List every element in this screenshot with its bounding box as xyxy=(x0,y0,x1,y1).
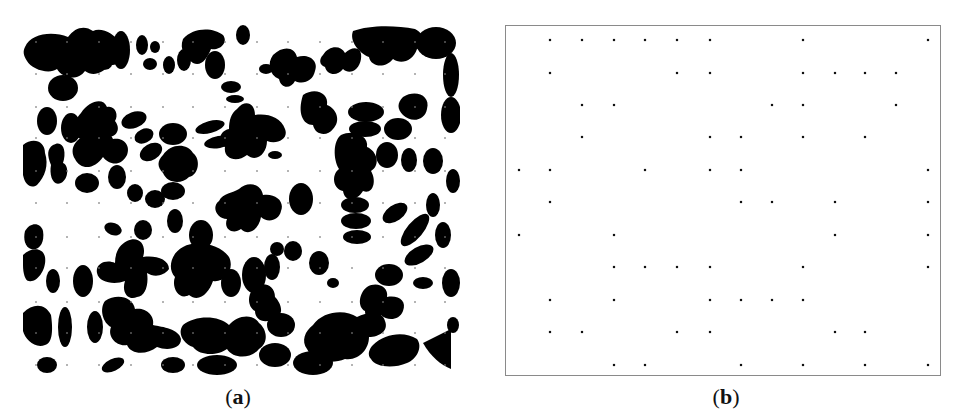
grid-dot xyxy=(35,332,37,334)
grid-dot xyxy=(351,73,353,75)
grid-dot xyxy=(162,137,164,139)
grid-dot xyxy=(192,106,194,108)
sampled-point xyxy=(864,364,866,366)
sampled-points-plot xyxy=(506,26,940,375)
grid-dot xyxy=(351,267,353,269)
sampled-point xyxy=(709,169,711,171)
grid-dot xyxy=(256,332,258,334)
sampled-point xyxy=(613,266,615,268)
sampled-point xyxy=(518,169,520,171)
sampled-point xyxy=(613,104,615,106)
grid-dot xyxy=(382,267,384,269)
grid-dot xyxy=(35,236,37,238)
grid-dot xyxy=(224,106,226,108)
sampled-point xyxy=(864,331,866,333)
grid-dot xyxy=(444,301,446,303)
grid-dot xyxy=(162,332,164,334)
sampled-point xyxy=(895,72,897,74)
caption-close-paren: ) xyxy=(732,384,739,409)
sampled-point xyxy=(549,201,551,203)
grid-dot xyxy=(414,170,416,172)
sampled-point xyxy=(802,39,804,41)
grid-dot xyxy=(444,267,446,269)
grid-dot xyxy=(224,301,226,303)
sampled-point xyxy=(644,364,646,366)
grid-dot xyxy=(287,202,289,204)
grid-dot xyxy=(192,73,194,75)
grid-dot xyxy=(162,364,164,366)
grid-dot xyxy=(444,73,446,75)
sampled-point xyxy=(676,266,678,268)
grid-dot xyxy=(444,137,446,139)
panel-a-microstructure-image xyxy=(23,25,460,378)
sampled-point xyxy=(613,39,615,41)
sampled-point xyxy=(864,72,866,74)
grid-dot xyxy=(319,202,321,204)
grid-dot xyxy=(287,267,289,269)
caption-letter: b xyxy=(720,384,732,409)
grid-dot xyxy=(192,41,194,43)
grid-dot xyxy=(414,41,416,43)
grid-dot xyxy=(162,73,164,75)
grid-dot xyxy=(192,170,194,172)
caption-close-paren: ) xyxy=(244,384,251,409)
grid-dot xyxy=(256,202,258,204)
grid-dot xyxy=(256,106,258,108)
grid-dot xyxy=(351,41,353,43)
grid-dot xyxy=(287,236,289,238)
sampled-point xyxy=(834,331,836,333)
grid-dot xyxy=(287,332,289,334)
sampled-point xyxy=(613,234,615,236)
sampled-point xyxy=(709,299,711,301)
grid-dot xyxy=(98,106,100,108)
grid-dot xyxy=(192,301,194,303)
grid-dot xyxy=(35,170,37,172)
grid-dot xyxy=(382,236,384,238)
grid-dot xyxy=(98,332,100,334)
sampled-point xyxy=(709,72,711,74)
sampled-point xyxy=(644,266,646,268)
grid-dot xyxy=(444,236,446,238)
grid-dot xyxy=(192,267,194,269)
sampled-point xyxy=(771,201,773,203)
grid-dot xyxy=(35,267,37,269)
grid-dot xyxy=(414,267,416,269)
sampled-point xyxy=(927,39,929,41)
grid-dot xyxy=(224,41,226,43)
sampled-point xyxy=(676,39,678,41)
grid-dot xyxy=(224,137,226,139)
grid-dot xyxy=(444,332,446,334)
grid-dot xyxy=(162,170,164,172)
grid-dot xyxy=(224,364,226,366)
sampled-point xyxy=(740,299,742,301)
grid-dot xyxy=(382,364,384,366)
grid-dot xyxy=(256,267,258,269)
grid-dot xyxy=(98,301,100,303)
sampled-point xyxy=(740,136,742,138)
grid-dot xyxy=(351,301,353,303)
grid-dot xyxy=(35,73,37,75)
grid-dot xyxy=(162,41,164,43)
caption-letter: a xyxy=(233,384,244,409)
caption-open-paren: ( xyxy=(713,384,720,409)
sampled-point xyxy=(549,169,551,171)
grid-dot xyxy=(414,202,416,204)
grid-dot xyxy=(66,106,68,108)
grid-dot xyxy=(98,267,100,269)
sampled-point-dots xyxy=(518,39,929,366)
grid-dot xyxy=(98,137,100,139)
grid-dot xyxy=(35,137,37,139)
grid-dot xyxy=(382,202,384,204)
sampled-point xyxy=(549,39,551,41)
sampled-point xyxy=(676,72,678,74)
grid-dot xyxy=(351,236,353,238)
caption-panel-a: (a) xyxy=(208,383,268,411)
caption-open-paren: ( xyxy=(225,384,232,409)
grid-dot xyxy=(130,106,132,108)
sampled-point xyxy=(895,104,897,106)
grid-dot xyxy=(130,364,132,366)
grid-dot xyxy=(192,202,194,204)
grid-dot xyxy=(319,73,321,75)
grid-dot xyxy=(192,332,194,334)
sampled-point xyxy=(927,201,929,203)
